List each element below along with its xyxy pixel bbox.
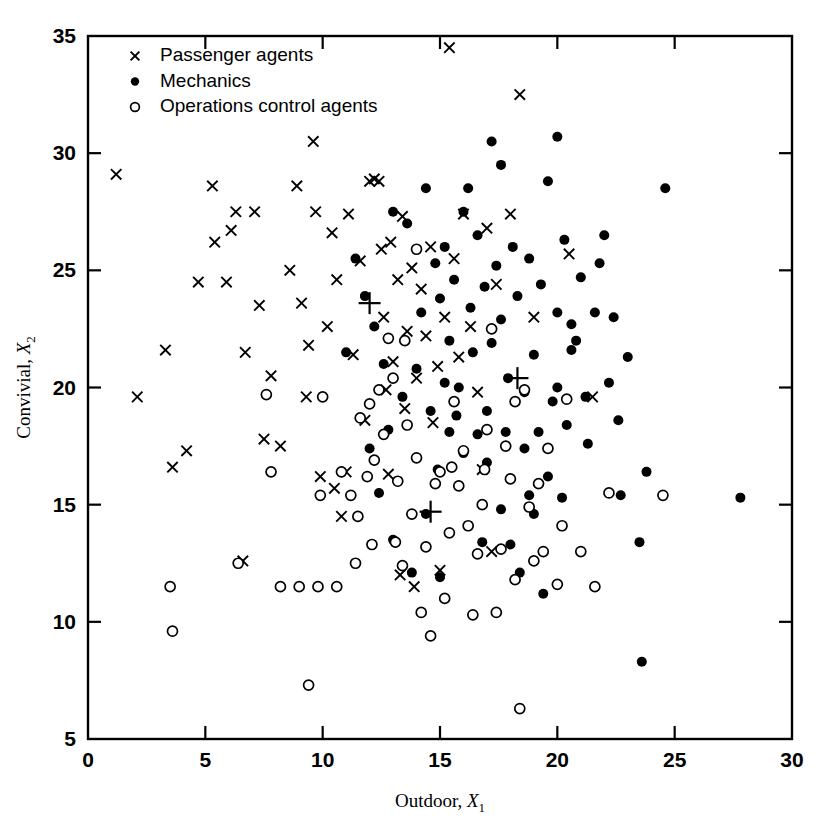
- cross-marker: [472, 387, 482, 397]
- open-circle-marker: [266, 467, 276, 477]
- open-circle-marker: [412, 244, 422, 254]
- filled-circle-marker: [536, 279, 546, 289]
- open-circle-marker: [604, 488, 614, 498]
- filled-circle-marker: [637, 657, 647, 667]
- filled-circle-marker: [562, 420, 572, 430]
- filled-circle-marker: [634, 537, 644, 547]
- filled-circle-marker: [524, 254, 534, 264]
- filled-circle-marker: [543, 176, 553, 186]
- filled-circle-marker: [512, 291, 522, 301]
- filled-circle-marker: [487, 338, 497, 348]
- filled-circle-marker: [412, 364, 422, 374]
- data-points: [111, 43, 745, 714]
- open-circle-marker: [412, 453, 422, 463]
- open-circle-marker: [393, 476, 403, 486]
- cross-marker: [486, 546, 496, 556]
- open-circle-marker: [315, 490, 325, 500]
- cross-marker: [292, 181, 302, 191]
- cross-marker: [425, 242, 435, 252]
- filled-circle-marker: [430, 258, 440, 268]
- open-circle-marker: [454, 481, 464, 491]
- open-circle-marker: [369, 455, 379, 465]
- filled-circle-marker: [435, 293, 445, 303]
- legend-item[interactable]: Operations control agents: [131, 95, 378, 116]
- open-circle-marker: [576, 547, 586, 557]
- open-circle-marker: [562, 394, 572, 404]
- filled-circle-marker: [454, 383, 464, 393]
- filled-circle-marker: [402, 218, 412, 228]
- filled-circle-marker: [397, 392, 407, 402]
- open-circle-marker: [261, 390, 271, 400]
- filled-circle-marker: [369, 322, 379, 332]
- open-circle-marker: [351, 558, 361, 568]
- open-circle-marker: [524, 502, 534, 512]
- cross-marker: [249, 207, 259, 217]
- filled-circle-marker: [580, 392, 590, 402]
- open-circle-marker: [165, 582, 175, 592]
- filled-circle-marker: [374, 488, 384, 498]
- y-axis-title: Convivial, X2: [13, 336, 38, 439]
- filled-circle-marker: [552, 132, 562, 142]
- filled-circle-marker: [468, 347, 478, 357]
- filled-circle-marker: [566, 345, 576, 355]
- legend-label: Mechanics: [160, 70, 251, 91]
- axes-frame: [88, 36, 792, 739]
- open-circle-marker: [275, 582, 285, 592]
- cross-marker: [402, 326, 412, 336]
- cross-marker: [376, 244, 386, 254]
- open-circle-marker: [426, 631, 436, 641]
- filled-circle-marker: [473, 429, 483, 439]
- cross-marker: [329, 483, 339, 493]
- open-circle-marker: [658, 490, 668, 500]
- filled-circle-marker: [449, 275, 459, 285]
- cross-marker: [343, 209, 353, 219]
- cross-marker: [482, 223, 492, 233]
- open-circle-marker: [304, 680, 314, 690]
- cross-marker: [388, 357, 398, 367]
- filled-circle-marker: [519, 443, 529, 453]
- cross-marker: [231, 207, 241, 217]
- open-circle-marker: [362, 472, 372, 482]
- open-circle-marker: [534, 479, 544, 489]
- legend-item[interactable]: Passenger agents: [131, 44, 314, 65]
- filled-circle-marker: [466, 303, 476, 313]
- x-tick-label: 15: [428, 748, 452, 771]
- filled-circle-marker: [444, 427, 454, 437]
- filled-circle-marker: [604, 378, 614, 388]
- cross-marker: [315, 471, 325, 481]
- filled-circle-marker: [496, 504, 506, 514]
- cross-marker: [383, 469, 393, 479]
- open-circle-marker: [390, 537, 400, 547]
- filled-circle-marker: [508, 242, 518, 252]
- cross-marker: [132, 392, 142, 402]
- filled-circle-marker: [496, 315, 506, 325]
- filled-circle-marker: [660, 183, 670, 193]
- filled-circle-marker: [440, 242, 450, 252]
- cross-marker: [432, 361, 442, 371]
- open-circle-marker: [510, 397, 520, 407]
- cross-marker: [444, 43, 454, 53]
- cross-marker: [193, 277, 203, 287]
- cross-marker: [409, 581, 419, 591]
- cross-marker: [428, 417, 438, 427]
- open-circle-marker: [421, 542, 431, 552]
- open-circle-marker: [346, 490, 356, 500]
- open-circle-marker: [430, 479, 440, 489]
- x-axis-title: Outdoor, X1: [395, 790, 485, 815]
- filled-circle-marker: [557, 493, 567, 503]
- y-tick-label: 10: [53, 610, 76, 633]
- filled-circle-marker: [407, 568, 417, 578]
- cross-marker: [266, 371, 276, 381]
- cross-marker: [529, 312, 539, 322]
- cross-marker: [221, 277, 231, 287]
- cross-marker: [505, 209, 515, 219]
- open-circle-marker: [440, 593, 450, 603]
- legend-item[interactable]: Mechanics: [131, 70, 251, 91]
- filled-circle-marker: [379, 359, 389, 369]
- open-circle-marker: [487, 324, 497, 334]
- cross-marker: [285, 265, 295, 275]
- y-tick-label: 25: [53, 258, 77, 281]
- filled-circle-marker: [590, 308, 600, 318]
- filled-circle-marker: [543, 472, 553, 482]
- cross-marker: [131, 52, 140, 61]
